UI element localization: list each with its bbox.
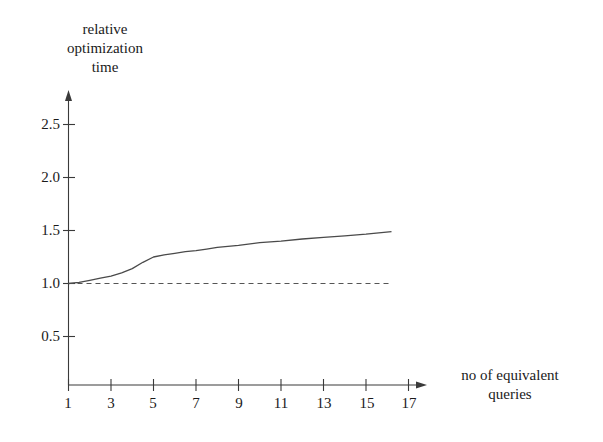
- x-tick-label-15: 15: [352, 395, 382, 411]
- x-tick-label-17: 17: [394, 395, 424, 411]
- x-tick-label-5: 5: [138, 395, 168, 411]
- x-axis-arrow-icon: [416, 382, 427, 389]
- chart-figure: relative optimization time no of equival…: [0, 0, 603, 442]
- y-tick-label-2-0: 2.0: [20, 169, 60, 185]
- y-tick-label-2-5: 2.5: [20, 116, 60, 132]
- x-axis-title: no of equivalent queries: [430, 366, 590, 404]
- data-curve-line: [69, 232, 392, 284]
- x-tick-label-13: 13: [309, 395, 339, 411]
- x-tick-label-3: 3: [96, 395, 126, 411]
- x-axis-title-line-1: no of equivalent: [430, 366, 590, 385]
- x-tick-label-9: 9: [224, 395, 254, 411]
- y-axis-title-line-3: time: [20, 58, 190, 77]
- x-axis-title-line-2: queries: [430, 385, 590, 404]
- x-tick-label-7: 7: [181, 395, 211, 411]
- y-axis-title-line-2: optimization: [20, 39, 190, 58]
- x-tick-label-1: 1: [53, 395, 83, 411]
- y-tick-label-1-5: 1.5: [20, 222, 60, 238]
- y-tick-label-1-0: 1.0: [20, 275, 60, 291]
- y-tick-label-0-5: 0.5: [20, 328, 60, 344]
- y-axis-arrow-icon: [65, 90, 72, 101]
- y-axis-title: relative optimization time: [20, 20, 190, 77]
- y-axis-title-line-1: relative: [20, 20, 190, 39]
- x-tick-label-11: 11: [266, 395, 296, 411]
